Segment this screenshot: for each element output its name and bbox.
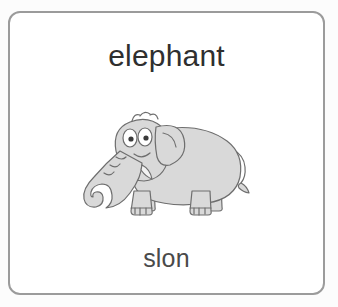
- pupil-right: [143, 135, 148, 140]
- tail-tuft: [238, 183, 249, 193]
- elephant-drawing: [72, 107, 262, 227]
- elephant-illustration: [72, 107, 262, 227]
- flashcard-scene: elephant: [0, 0, 338, 307]
- vocabulary-flashcard: elephant: [8, 11, 325, 295]
- pupil-left: [128, 136, 133, 141]
- translation-caption: slon: [10, 246, 323, 271]
- front-leg-near: [131, 191, 152, 215]
- hind-leg-near: [190, 191, 211, 215]
- page-title: elephant: [10, 41, 323, 71]
